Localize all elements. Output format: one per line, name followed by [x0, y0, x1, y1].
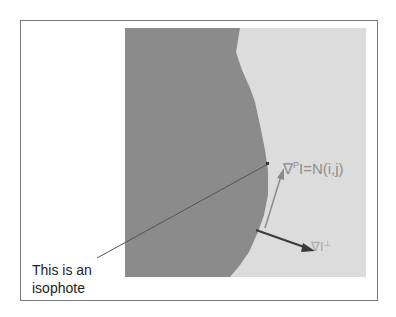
- isophote-main: ∇I: [311, 239, 324, 254]
- isophote-direction-label: ∇I⊥: [311, 239, 331, 254]
- gradient-label: ∇PI=N(i,j): [283, 160, 344, 178]
- pointer-tip: [266, 162, 269, 165]
- nabla-symbol: ∇: [283, 160, 293, 177]
- gradient-expression: I=N(i,j): [299, 160, 344, 177]
- callout-line-1: This is an: [32, 261, 92, 279]
- isophote-callout: This is an isophote: [32, 261, 92, 297]
- perpendicular-superscript: ⊥: [324, 239, 331, 248]
- callout-line-2: isophote: [32, 279, 92, 297]
